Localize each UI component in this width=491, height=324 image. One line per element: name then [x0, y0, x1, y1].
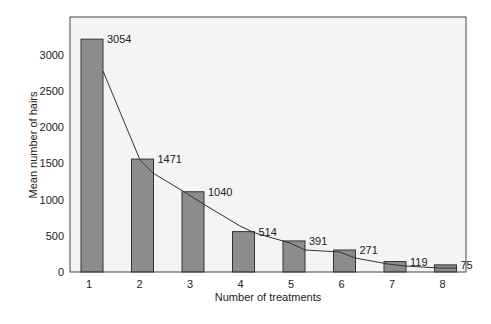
x-tick-label: 5: [288, 278, 294, 290]
x-tick-label: 7: [389, 278, 395, 290]
value-label: 3054: [107, 33, 131, 45]
y-tick-label: 2000: [40, 121, 64, 133]
bar-4: [233, 232, 255, 272]
x-tick-label: 2: [136, 278, 142, 290]
x-tick-label: 8: [439, 278, 445, 290]
bar-2: [132, 159, 154, 272]
y-tick-label: 1000: [40, 194, 64, 206]
bar-5: [283, 241, 305, 272]
x-axis-title: Number of treatments: [215, 291, 322, 303]
value-label: 75: [461, 259, 473, 271]
x-axis-ticks: 12345678: [86, 278, 446, 290]
y-tick-label: 1500: [40, 157, 64, 169]
bar-7: [384, 262, 406, 272]
value-label: 1471: [158, 153, 182, 165]
value-label: 271: [360, 244, 378, 256]
y-axis-ticks: 050010001500200025003000: [40, 49, 64, 279]
value-label: 391: [309, 235, 327, 247]
chart: 30541471104051439127111975 0500100015002…: [0, 0, 491, 324]
value-label: 1040: [208, 186, 232, 198]
bar-3: [182, 192, 204, 272]
x-tick-label: 6: [338, 278, 344, 290]
value-label: 119: [410, 256, 428, 268]
y-tick-label: 0: [58, 266, 64, 278]
y-tick-label: 500: [46, 230, 64, 242]
bar-1: [81, 39, 103, 272]
value-label: 514: [259, 226, 277, 238]
y-tick-label: 3000: [40, 49, 64, 61]
x-tick-label: 4: [237, 278, 243, 290]
y-tick-label: 2500: [40, 85, 64, 97]
x-tick-label: 3: [187, 278, 193, 290]
y-axis-title: Mean number of hairs: [27, 91, 39, 198]
x-tick-label: 1: [86, 278, 92, 290]
